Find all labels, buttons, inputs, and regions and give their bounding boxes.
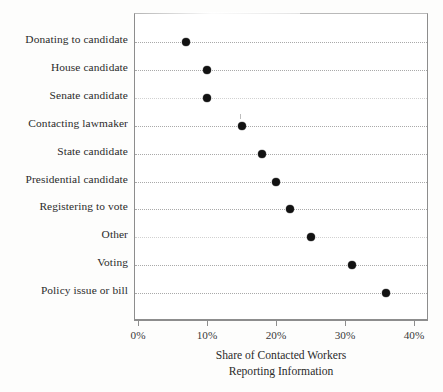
x-tick-label: 40%: [404, 329, 425, 341]
scan-speck-artifact: [240, 114, 241, 119]
category-label: House candidate: [0, 61, 128, 73]
category-label: Contacting lawmaker: [0, 117, 128, 129]
gridline: [135, 98, 427, 99]
x-tick: [138, 320, 139, 326]
data-point-marker[interactable]: [203, 66, 211, 74]
category-label: Voting: [0, 256, 128, 268]
x-tick-label: 20%: [266, 329, 287, 341]
category-label: Registering to vote: [0, 200, 128, 212]
x-axis-title: Share of Contacted Workers Reporting Inf…: [134, 348, 428, 380]
x-tick: [276, 320, 277, 326]
gridline: [135, 237, 427, 238]
category-label: Policy issue or bill: [0, 284, 128, 296]
data-point-marker[interactable]: [272, 178, 280, 186]
x-axis-title-line-2: Reporting Information: [134, 364, 428, 380]
category-label: Presidential candidate: [0, 173, 128, 185]
gridline: [135, 209, 427, 210]
dot-plot-figure: Donating to candidateHouse candidateSena…: [0, 0, 443, 392]
category-label: Donating to candidate: [0, 33, 128, 45]
gridline: [135, 265, 427, 266]
data-point-marker[interactable]: [203, 94, 211, 102]
data-point-marker[interactable]: [238, 122, 246, 130]
category-label: Senate candidate: [0, 89, 128, 101]
gridline: [135, 182, 427, 183]
x-axis-title-line-1: Share of Contacted Workers: [134, 348, 428, 364]
x-tick-label: 10%: [197, 329, 218, 341]
gridline: [135, 154, 427, 155]
plot-frame: [134, 13, 428, 320]
gridline: [135, 42, 427, 43]
data-point-marker[interactable]: [258, 150, 266, 158]
x-tick: [207, 320, 208, 326]
x-tick-label: 0%: [131, 329, 146, 341]
x-tick-label: 30%: [335, 329, 356, 341]
data-point-marker[interactable]: [307, 233, 315, 241]
category-label: State candidate: [0, 145, 128, 157]
x-tick: [414, 320, 415, 326]
x-tick: [345, 320, 346, 326]
gridline: [135, 126, 427, 127]
category-label: Other: [0, 228, 128, 240]
gridline: [135, 70, 427, 71]
x-axis-line: [134, 320, 428, 321]
